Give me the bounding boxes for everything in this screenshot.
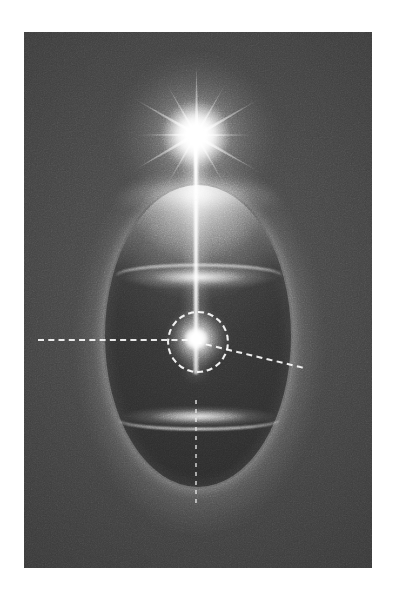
- starburst-ray: [193, 132, 198, 137]
- starburst-ray: [194, 133, 198, 137]
- figure-stage: [24, 32, 372, 568]
- starburst-ray: [193, 132, 198, 137]
- figure-root: Point light source above a translucent e…: [0, 0, 395, 591]
- starburst-ray: [193, 132, 198, 137]
- starburst-ray: [193, 132, 198, 137]
- ellipsoid-body: [105, 185, 291, 487]
- starburst-ray: [193, 132, 198, 137]
- starburst-ray: [194, 133, 198, 137]
- starburst-core: [162, 101, 230, 169]
- photographic-plate: [24, 32, 372, 568]
- figure-title: Point light source above a translucent e…: [0, 21, 1, 22]
- starburst-ray: [193, 132, 198, 137]
- starburst-ray: [194, 133, 198, 137]
- starburst-ray: [193, 132, 198, 137]
- starburst-ray: [193, 132, 198, 137]
- starburst-ray: [194, 133, 198, 137]
